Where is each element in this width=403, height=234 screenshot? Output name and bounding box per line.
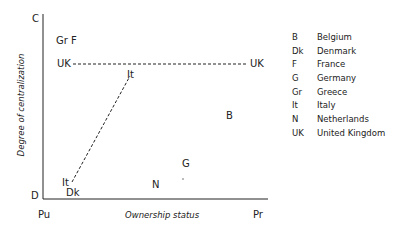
point-dk: Dk bbox=[66, 188, 80, 198]
y-axis-top-label: C bbox=[32, 14, 39, 24]
germany-dot bbox=[182, 178, 183, 179]
y-axis-title: Degree of centralization bbox=[16, 50, 26, 160]
legend-item: NNetherlands bbox=[292, 112, 385, 126]
x-axis-right-label: Pr bbox=[253, 210, 263, 220]
x-axis-title: Ownership status bbox=[125, 210, 199, 220]
point-n: N bbox=[152, 180, 159, 190]
legend-item: BBelgium bbox=[292, 30, 385, 44]
legend-item: DkDenmark bbox=[292, 44, 385, 58]
legend: BBelgium DkDenmark FFrance GGermany GrGr… bbox=[292, 30, 385, 140]
italy-dashed-line bbox=[72, 76, 130, 182]
legend-item: GGermany bbox=[292, 71, 385, 85]
legend-item: ItItaly bbox=[292, 98, 385, 112]
legend-item: UKUnited Kingdom bbox=[292, 126, 385, 140]
legend-item: GrGreece bbox=[292, 85, 385, 99]
point-gr-f: Gr F bbox=[56, 36, 77, 46]
point-uk-left: UK bbox=[57, 59, 71, 69]
legend-item: FFrance bbox=[292, 57, 385, 71]
point-g: G bbox=[182, 159, 190, 169]
x-axis-left-label: Pu bbox=[38, 210, 50, 220]
y-axis-bottom-label: D bbox=[31, 191, 39, 201]
point-uk-right: UK bbox=[250, 59, 264, 69]
point-b: B bbox=[226, 111, 233, 121]
point-it-top: It bbox=[127, 70, 134, 80]
